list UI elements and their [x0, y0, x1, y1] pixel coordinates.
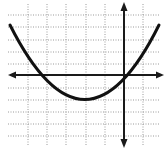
- y-axis-up-arrow-icon: [121, 2, 128, 11]
- y-axis-down-arrow-icon: [121, 139, 128, 148]
- x-axis-left-arrow-icon: [8, 72, 16, 79]
- parabola-graph: [0, 0, 168, 153]
- x-axis-right-arrow-icon: [156, 72, 164, 79]
- parabola-curve: [10, 25, 159, 100]
